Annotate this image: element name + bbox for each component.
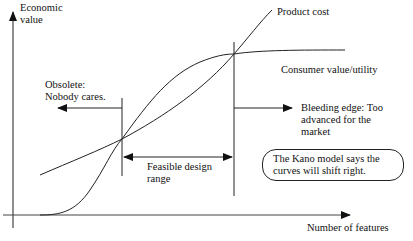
feasible-range-label-line2: range <box>147 173 212 185</box>
feasible-range-label: Feasible design range <box>147 161 212 185</box>
kano-model-callout: The Kano model says the curves will shif… <box>262 149 404 181</box>
y-axis-label-line1: Economic <box>20 2 63 14</box>
obsolete-label-line1: Obsolete: <box>45 79 106 91</box>
bleeding-edge-label-line2: advanced for the <box>301 114 383 126</box>
obsolete-label: Obsolete: Nobody cares. <box>45 79 106 103</box>
y-axis-label-line2: value <box>20 14 63 26</box>
y-axis-label: Economic value <box>20 2 63 26</box>
bleeding-edge-label-line1: Bleeding edge: Too <box>301 102 383 114</box>
x-axis-label: Number of features <box>307 222 389 234</box>
bleeding-edge-label: Bleeding edge: Too advanced for the mark… <box>301 102 383 138</box>
feasible-range-label-line1: Feasible design <box>147 161 212 173</box>
product-cost-label: Product cost <box>277 6 329 18</box>
obsolete-label-line2: Nobody cares. <box>45 91 106 103</box>
bleeding-edge-label-line3: market <box>301 126 383 138</box>
kano-callout-line2: curves will shift right. <box>273 165 393 177</box>
kano-callout-line1: The Kano model says the <box>273 153 393 165</box>
consumer-value-label: Consumer value/utility <box>281 64 378 76</box>
